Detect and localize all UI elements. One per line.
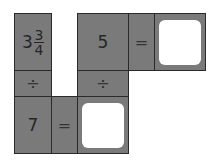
answer-box-top[interactable] — [154, 13, 206, 71]
divide-sign-left: ÷ — [14, 70, 52, 97]
equals-sign-bottom: = — [51, 96, 78, 154]
divide-sign-right: ÷ — [77, 70, 129, 97]
answer-input-bottom[interactable] — [82, 103, 124, 148]
number-cell-7: 7 — [14, 96, 52, 154]
answer-box-bottom[interactable] — [77, 96, 129, 154]
fraction: 3 4 — [34, 28, 44, 57]
whole-part: 3 — [22, 32, 33, 52]
mixed-number: 3 3 4 — [22, 28, 44, 57]
answer-input-top[interactable] — [159, 20, 201, 65]
number-cell-5: 5 — [77, 13, 129, 71]
denominator: 4 — [34, 43, 43, 57]
numerator: 3 — [34, 28, 43, 42]
equals-sign-top: = — [128, 13, 155, 71]
mixed-number-cell: 3 3 4 — [14, 13, 52, 71]
